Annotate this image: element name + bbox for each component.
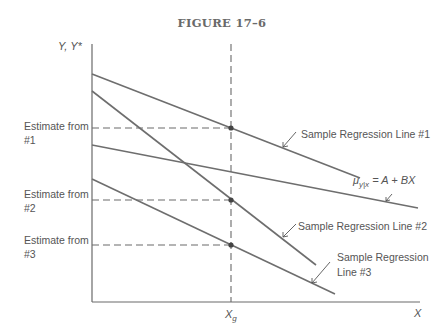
line-3-pointer-arrow [312, 262, 330, 283]
figure-title: FIGURE 17–6 [178, 16, 267, 30]
estimate-1-label-line1: Estimate from [24, 120, 89, 132]
x-axis-label: X [413, 307, 422, 319]
line-2-pointer-arrow [283, 224, 296, 237]
sample-regression-line-1 [92, 74, 360, 178]
regression-figure: FIGURE 17–6 Y, Y* X Xg Estimate from #1 … [0, 0, 444, 335]
population-line-label: μy|x = A + BX [352, 174, 416, 189]
estimate-1-label-line2: #1 [24, 134, 36, 146]
line-1-pointer-arrow [283, 132, 296, 147]
estimate-1-point [228, 125, 233, 130]
sample-regression-line-3 [92, 179, 335, 294]
estimate-2-point [228, 197, 233, 202]
y-axis-label: Y, Y* [58, 40, 83, 52]
sample-line-3-label-line1: Sample Regression [337, 251, 429, 263]
estimate-3-label-line2: #3 [24, 248, 36, 260]
estimate-2-label-line1: Estimate from [24, 188, 89, 200]
estimate-3-point [228, 242, 233, 247]
sample-line-1-label: Sample Regression Line #1 [301, 128, 430, 140]
estimate-2-label-line2: #2 [24, 202, 36, 214]
population-line-pointer-arrow [386, 194, 392, 201]
estimate-3-label-line1: Estimate from [24, 234, 89, 246]
sample-line-3-label-line2: Line #3 [337, 266, 372, 278]
xg-label: Xg [224, 308, 237, 323]
sample-line-2-label: Sample Regression Line #2 [298, 220, 427, 232]
